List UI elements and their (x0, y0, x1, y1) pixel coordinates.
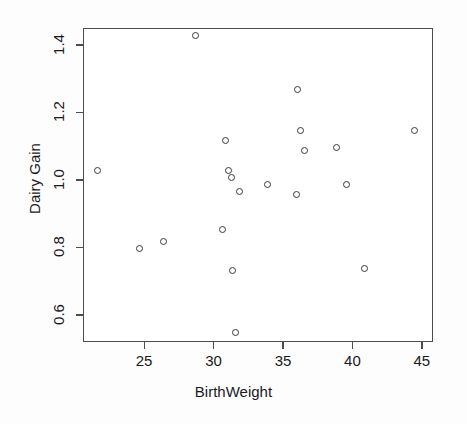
y-tick-label: 1.4 (44, 36, 72, 53)
data-point (232, 329, 239, 336)
x-tick (213, 342, 214, 349)
data-point (301, 147, 308, 154)
y-tick-label-text: 1.4 (49, 34, 66, 55)
x-tick-label: 40 (330, 352, 374, 369)
data-point (160, 238, 167, 245)
y-tick (76, 314, 83, 315)
x-tick (144, 342, 145, 349)
y-tick-label: 1.2 (44, 103, 72, 120)
data-point (228, 174, 235, 181)
x-tick-label: 25 (122, 352, 166, 369)
x-tick (352, 342, 353, 349)
plot-area (83, 28, 433, 342)
data-point (219, 226, 226, 233)
x-tick-label: 30 (192, 352, 236, 369)
data-point (192, 32, 199, 39)
data-point (411, 127, 418, 134)
data-point (264, 181, 271, 188)
data-point (236, 188, 243, 195)
y-tick (76, 247, 83, 248)
data-point (229, 267, 236, 274)
x-axis-title: BirthWeight (0, 383, 467, 400)
x-tick-label: 35 (261, 352, 305, 369)
data-point (222, 137, 229, 144)
y-tick-label-text: 0.6 (49, 304, 66, 325)
data-point (294, 86, 301, 93)
y-tick-label: 1.0 (44, 171, 72, 188)
x-tick-label: 45 (400, 352, 444, 369)
data-point (297, 127, 304, 134)
y-tick (76, 44, 83, 45)
data-point (333, 144, 340, 151)
data-point (361, 265, 368, 272)
data-point (343, 181, 350, 188)
y-tick-label-text: 1.2 (49, 101, 66, 122)
y-axis-title: Dairy Gain (26, 99, 43, 259)
y-tick (76, 112, 83, 113)
data-point (293, 191, 300, 198)
y-tick (76, 179, 83, 180)
y-tick-label: 0.8 (44, 238, 72, 255)
scatter-plot-figure: BirthWeight Dairy Gain 25303540450.60.81… (0, 0, 467, 424)
x-tick (282, 342, 283, 349)
y-tick-label-text: 1.0 (49, 169, 66, 190)
data-point (94, 167, 101, 174)
y-tick-label: 0.6 (44, 306, 72, 323)
y-tick-label-text: 0.8 (49, 237, 66, 258)
data-point (136, 245, 143, 252)
x-tick (421, 342, 422, 349)
